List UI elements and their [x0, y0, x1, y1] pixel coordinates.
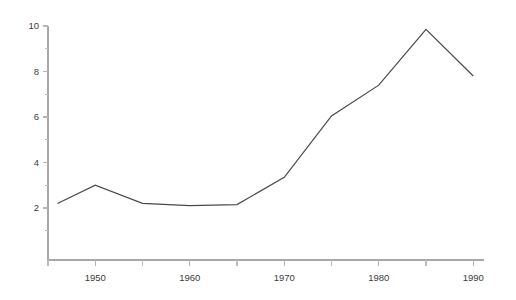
- y-ticks-group: [43, 26, 48, 231]
- y-tick-label: 2: [34, 202, 39, 213]
- x-tick-label: 1980: [368, 272, 389, 283]
- line-chart: 246810 19501960197019801990: [0, 0, 516, 300]
- y-tick-label: 4: [34, 157, 39, 168]
- y-tick-label: 6: [34, 111, 39, 122]
- y-tick-label: 8: [34, 66, 39, 77]
- y-tick-label: 10: [28, 20, 39, 31]
- axes-group: [48, 26, 484, 260]
- y-tick-labels-group: 246810: [28, 20, 39, 213]
- x-tick-label: 1960: [179, 272, 200, 283]
- x-tick-label: 1950: [85, 272, 106, 283]
- data-line-series-1: [57, 29, 473, 205]
- x-tick-labels-group: 19501960197019801990: [85, 272, 484, 283]
- axis-spine: [48, 26, 484, 260]
- chart-canvas: 246810 19501960197019801990: [0, 0, 516, 300]
- x-ticks-group: [48, 260, 473, 266]
- x-tick-label: 1990: [463, 272, 484, 283]
- x-tick-label: 1970: [274, 272, 295, 283]
- data-series-group: [57, 29, 473, 205]
